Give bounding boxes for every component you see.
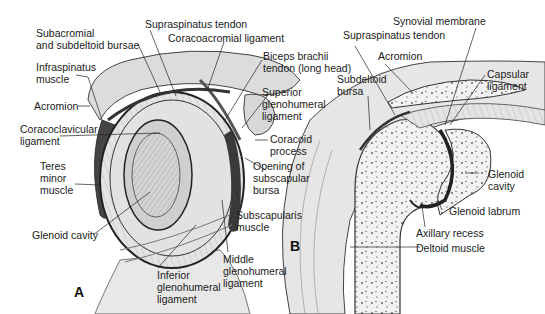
label-glenoid-labrum: Glenoid labrum xyxy=(449,205,520,217)
label-teres-minor-muscle: Teres minor muscle xyxy=(40,160,73,196)
label-coracoid-process: Coracoid process xyxy=(270,133,312,157)
label-subscapularis-muscle: Subscapularis muscle xyxy=(236,209,302,233)
panel-letter-a: A xyxy=(74,284,84,300)
shoulder-anatomy-figure: Subacromial and subdeltoid bursae Supras… xyxy=(0,0,545,314)
label-subdeltoid-bursa: Subdeltoid bursa xyxy=(337,73,387,97)
label-capsular-ligament: Capsular ligament xyxy=(487,68,529,92)
label-glenoid-cavity-b: Glenoid cavity xyxy=(488,168,524,192)
label-inferior-glenohumeral-ligament: Inferior glenohumeral ligament xyxy=(157,269,221,305)
label-acromion-a: Acromion xyxy=(34,100,78,112)
panel-letter-b: B xyxy=(290,238,300,254)
label-infraspinatus-muscle: Infraspinatus muscle xyxy=(36,61,96,85)
label-middle-glenohumeral-ligament: Middle glenohumeral ligament xyxy=(223,253,287,289)
label-opening-subscapular-bursa: Opening of subscapular bursa xyxy=(253,160,310,196)
label-coracoclavicular-ligament: Coracoclavicular ligament xyxy=(20,123,98,147)
label-synovial-membrane: Synovial membrane xyxy=(393,15,486,27)
label-coracoacromial-ligament: Coracoacromial ligament xyxy=(168,32,284,44)
label-superior-glenohumeral-ligament: Superior glenohumeral ligament xyxy=(262,86,326,122)
label-deltoid-muscle: Deltoid muscle xyxy=(416,242,485,254)
label-biceps-brachii-tendon: Biceps brachii tendon (long head) xyxy=(263,50,351,74)
label-supraspinatus-tendon-b: Supraspinatus tendon xyxy=(343,29,445,41)
label-axillary-recess: Axillary recess xyxy=(416,227,484,239)
label-subacromial-subdeltoid-bursae: Subacromial and subdeltoid bursae xyxy=(36,27,139,51)
label-supraspinatus-tendon-a: Supraspinatus tendon xyxy=(145,18,247,30)
label-acromion-b: Acromion xyxy=(378,50,422,62)
label-glenoid-cavity-a: Glenoid cavity xyxy=(32,229,98,241)
